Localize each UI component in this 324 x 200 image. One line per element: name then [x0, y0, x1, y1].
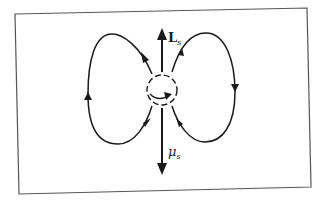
- spinning-particle: [147, 75, 177, 105]
- spin-dipole-diagram: Ls μs: [0, 0, 324, 200]
